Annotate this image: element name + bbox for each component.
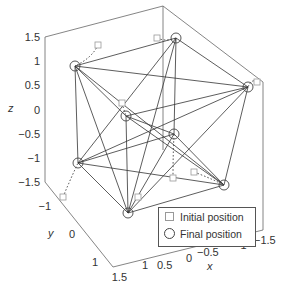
svg-text:1.5: 1.5 — [25, 31, 40, 43]
svg-text:0: 0 — [69, 228, 75, 240]
svg-text:−1.5: −1.5 — [18, 176, 40, 188]
svg-text:0: 0 — [186, 252, 192, 264]
svg-text:−0.5: −0.5 — [18, 128, 40, 140]
svg-text:−1: −1 — [27, 152, 40, 164]
legend-item-initial: Initial position — [159, 208, 255, 225]
circle-marker-icon — [164, 228, 175, 239]
y-axis-ticks: −1 0 1 1.5 — [38, 200, 127, 283]
svg-text:1: 1 — [34, 55, 40, 67]
legend-label-initial: Initial position — [180, 211, 244, 223]
svg-text:−0.5: −0.5 — [197, 246, 219, 258]
svg-text:−1.5: −1.5 — [254, 234, 276, 246]
svg-text:−1: −1 — [38, 200, 51, 212]
legend: Initial position Final position — [158, 207, 256, 247]
3d-plot: 1.5 1 0.5 0 −0.5 −1 −1.5 z −1 0 1 1.5 y … — [0, 0, 283, 298]
svg-text:1.5: 1.5 — [112, 271, 127, 283]
svg-text:0.5: 0.5 — [157, 259, 172, 271]
x-axis-label: x — [206, 260, 213, 272]
z-axis-label: z — [7, 102, 14, 114]
y-axis-label: y — [47, 227, 55, 239]
graph-edges — [75, 38, 248, 213]
z-axis-ticks: 1.5 1 0.5 0 −0.5 −1 −1.5 — [18, 31, 40, 188]
svg-text:1: 1 — [92, 256, 98, 268]
svg-text:0: 0 — [34, 104, 40, 116]
legend-label-final: Final position — [180, 228, 242, 240]
legend-item-final: Final position — [159, 225, 255, 242]
svg-text:1: 1 — [142, 259, 148, 271]
svg-text:0.5: 0.5 — [25, 79, 40, 91]
trajectories — [63, 38, 257, 197]
square-marker-icon — [165, 212, 174, 221]
